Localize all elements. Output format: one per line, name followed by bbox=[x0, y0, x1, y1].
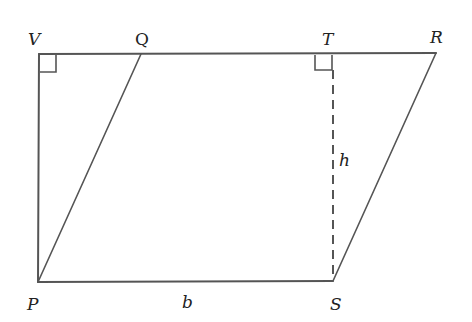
right-angle-marker-t bbox=[315, 55, 332, 70]
label-s: S bbox=[330, 294, 342, 314]
segment-ps bbox=[38, 281, 333, 282]
label-r: R bbox=[429, 27, 443, 47]
label-t: T bbox=[322, 29, 335, 49]
label-q: Q bbox=[135, 29, 149, 49]
label-p: P bbox=[26, 294, 39, 314]
segment-vp bbox=[38, 54, 39, 282]
label-h: h bbox=[339, 150, 350, 170]
segment-pq bbox=[38, 54, 141, 282]
right-angle-marker-v bbox=[40, 55, 56, 72]
segment-vr bbox=[39, 53, 436, 54]
label-v: V bbox=[28, 29, 42, 49]
label-b: b bbox=[182, 292, 193, 312]
parallelogram-diagram: V Q T R P b S h bbox=[0, 0, 472, 322]
